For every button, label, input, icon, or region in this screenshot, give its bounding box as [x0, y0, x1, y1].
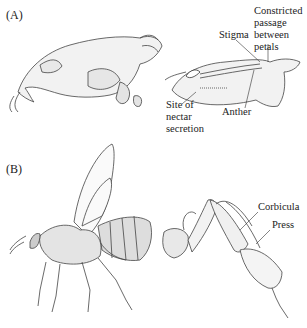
panel-label-a: (A) [6, 8, 23, 23]
label-stigma: Stigma [219, 29, 249, 40]
label-constricted-passage-4: petals [254, 41, 279, 52]
label-anther: Anther [222, 106, 251, 117]
label-site-nectar-2: nectar [166, 111, 192, 122]
label-constricted-passage-3: between [254, 29, 289, 40]
label-site-nectar-3: secretion [166, 123, 204, 134]
honeybee-side-view [10, 144, 152, 312]
label-constricted-passage-1: Constricted [254, 5, 302, 16]
panel-label-b: (B) [6, 162, 22, 177]
label-press: Press [272, 219, 294, 230]
label-constricted-passage-2: passage [254, 17, 287, 28]
label-site-nectar-1: Site of [166, 99, 194, 110]
bee-hind-leg [163, 200, 288, 318]
label-corbicula: Corbicula [258, 201, 299, 212]
flower-side-view [10, 35, 162, 112]
